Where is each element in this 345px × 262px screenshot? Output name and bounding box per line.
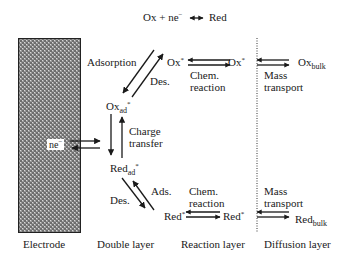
species-ox-star-2: Ox*	[228, 56, 245, 68]
ox-star-2-base: Ox	[228, 56, 241, 68]
red-ad-sup: *	[135, 162, 139, 170]
ox-bulk-sub: bulk	[311, 62, 325, 71]
red-bulk-base: Red	[295, 213, 313, 225]
red-star-2-sup: *	[241, 210, 245, 218]
species-red-bulk: Redbulk	[295, 213, 327, 225]
species-ox-ad: Oxad*	[106, 100, 131, 112]
species-ox-star-1: Ox*	[167, 56, 184, 68]
species-red-star-1: Red*	[164, 210, 185, 222]
desorption-top-label: Des.	[150, 75, 170, 87]
ox-ad-base: Ox	[106, 100, 119, 112]
ox-star-1-base: Ox	[167, 56, 180, 68]
layer-label-reaction-layer: Reaction layer	[181, 238, 245, 250]
layer-label-double-layer: Double layer	[97, 238, 154, 250]
red-star-1-base: Red	[164, 210, 182, 222]
red-ad-base: Red	[110, 162, 128, 174]
chem-reaction-top-label-2: reaction	[190, 81, 225, 93]
mass-transport-bottom-label-2: transport	[264, 197, 303, 209]
species-red-star-2: Red*	[223, 210, 244, 222]
chem-reaction-top-label-1: Chem.	[190, 69, 219, 81]
equation-superscript: −	[179, 11, 183, 19]
red-star-1-sup: *	[182, 210, 186, 218]
red-bulk-sub: bulk	[313, 219, 327, 228]
ox-ad-sub: ad	[119, 106, 127, 115]
chem-reaction-bottom-label-1: Chem.	[189, 185, 218, 197]
layer-label-diffusion-layer: Diffusion layer	[264, 238, 331, 250]
species-red-ad: Redad*	[110, 162, 139, 174]
desorption-bottom-label: Des.	[110, 194, 130, 206]
adsorption-label: Adsorption	[87, 56, 137, 68]
ox-star-1-sup: *	[180, 56, 184, 64]
ox-star-2-sup: *	[241, 56, 245, 64]
equation-right: Red	[209, 11, 227, 23]
mass-transport-top-label-2: transport	[264, 81, 303, 93]
electrode-reaction-diagram	[0, 0, 345, 262]
ox-ad-sup: *	[127, 100, 131, 108]
chem-reaction-bottom-label-2: reaction	[189, 197, 224, 209]
layer-label-electrode: Electrode	[23, 238, 65, 250]
mass-transport-bottom-label-1: Mass	[264, 185, 287, 197]
equation-left: Ox + ne−	[143, 11, 182, 23]
equation-left-text: Ox + ne	[143, 11, 179, 23]
charge-transfer-label-1: Charge	[129, 125, 161, 137]
adsorption-bottom-label: Ads.	[151, 185, 171, 197]
ox-bulk-base: Ox	[298, 56, 311, 68]
electron-sup: −	[58, 138, 62, 146]
electron-label: ne−	[47, 139, 64, 150]
red-star-2-base: Red	[223, 210, 241, 222]
mass-transport-top-label-1: Mass	[264, 69, 287, 81]
charge-transfer-label-2: transfer	[129, 137, 163, 149]
species-ox-bulk: Oxbulk	[298, 56, 326, 68]
electrode-block	[19, 39, 81, 233]
